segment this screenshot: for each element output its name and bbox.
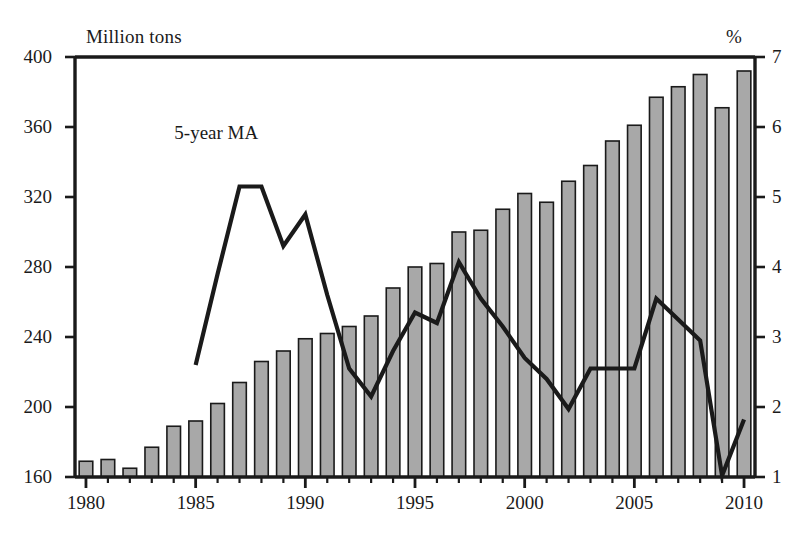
x-tick-label-1985: 1985 [177,492,215,514]
x-axis-tick-labels: 1980198519901995200020052010 [0,0,809,542]
series-annotation-5-year-ma: 5-year MA [174,122,258,144]
x-tick-label-1995: 1995 [396,492,434,514]
x-tick-label-2010: 2010 [725,492,763,514]
x-tick-label-2000: 2000 [506,492,544,514]
x-tick-label-2005: 2005 [615,492,653,514]
x-tick-label-1980: 1980 [67,492,105,514]
chart-container: Million tons % 160200240280320360400 123… [0,0,809,542]
x-tick-label-1990: 1990 [286,492,324,514]
